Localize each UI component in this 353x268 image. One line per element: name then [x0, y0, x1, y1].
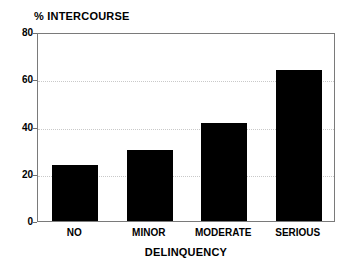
y-axis-tick-mark	[33, 222, 37, 223]
plot-area	[37, 33, 335, 222]
y-axis-tick-label: 40	[3, 123, 33, 133]
y-axis-title: % INTERCOURSE	[34, 10, 130, 22]
y-axis-tick-label: 0	[3, 217, 33, 227]
x-axis-tick-label: NO	[37, 227, 112, 239]
bar	[127, 150, 173, 221]
bars-group	[38, 34, 334, 221]
y-axis-tick-label: 60	[3, 75, 33, 85]
y-axis-tick-label: 80	[3, 28, 33, 38]
y-axis-tick-labels: 020406080	[0, 33, 33, 222]
x-axis-title: DELINQUENCY	[37, 246, 335, 258]
bar-chart: % INTERCOURSE 020406080 NOMINORMODERATES…	[0, 0, 353, 268]
bar	[201, 123, 247, 221]
x-axis-tick-labels: NOMINORMODERATESERIOUS	[37, 227, 335, 241]
y-axis-tick-label: 20	[3, 170, 33, 180]
bar	[276, 70, 322, 221]
x-axis-tick-label: SERIOUS	[261, 227, 336, 239]
x-axis-tick-label: MODERATE	[186, 227, 261, 239]
bar	[52, 165, 98, 221]
x-axis-tick-label: MINOR	[112, 227, 187, 239]
